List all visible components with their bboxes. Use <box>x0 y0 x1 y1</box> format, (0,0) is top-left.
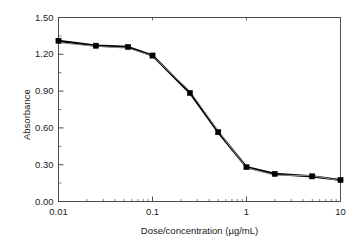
data-series-layer <box>59 41 341 181</box>
y-tick-label: 1.50 <box>35 13 54 23</box>
y-tick-label: 0.90 <box>35 86 54 96</box>
y-tick-label: 0.30 <box>35 160 54 170</box>
chart-figure: 0.010.1110 0.000.300.600.901.201.50 Dose… <box>0 0 363 249</box>
x-tick-label: 0.1 <box>146 207 159 217</box>
y-tick-label: 1.20 <box>35 50 54 60</box>
x-tick-label: 10 <box>335 207 346 217</box>
x-tick-label: 0.01 <box>49 207 68 217</box>
y-tick-label: 0.60 <box>35 123 54 133</box>
y-tick-label: 0.00 <box>35 197 54 207</box>
x-tick-label: 1 <box>244 207 249 217</box>
x-axis-title: Dose/concentration (µg/mL) <box>59 226 341 236</box>
y-axis-title: Absorbance <box>22 89 32 140</box>
data-markers-layer <box>56 38 343 182</box>
y-axis-ticks <box>59 18 64 202</box>
